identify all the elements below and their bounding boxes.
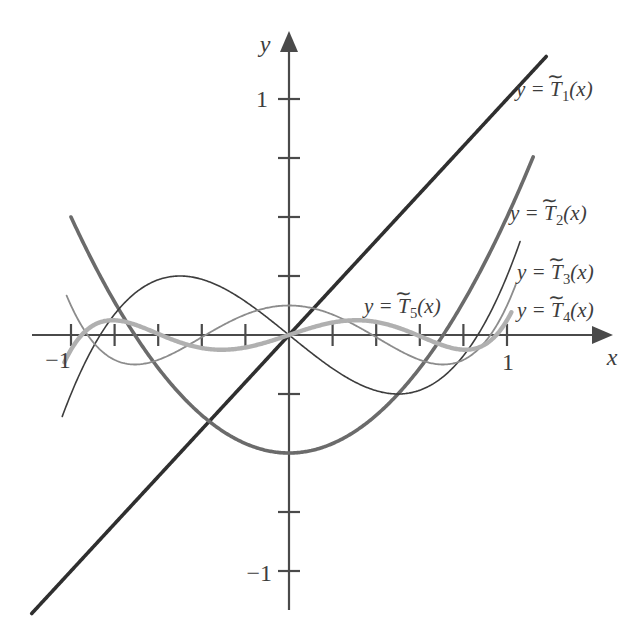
x-tick-label-neg1: −1 [45,347,71,373]
curve-label-t5-symbol: ∼T [398,296,410,317]
x-axis-arrowhead [592,326,613,344]
y-tick-label-pos1: 1 [256,86,268,112]
curve-label-t1-eq: y = [516,77,545,101]
y-tick-label-neg1: −1 [246,560,272,586]
y-axis-label: y [258,31,271,57]
x-tick-label-pos1: 1 [502,349,514,375]
curve-label-t4: y = ∼T4(x) [517,300,594,324]
curve-label-t3-symbol: ∼T [551,262,563,283]
curve-label-t5-arg: (x) [417,294,440,318]
y-axis-arrowhead [280,31,298,52]
curve-label-t1: y = ∼T1(x) [516,79,593,103]
curve-label-t4-symbol: ∼T [551,300,563,321]
curve-label-t3: y = ∼T3(x) [517,262,594,286]
curve-label-t1-symbol: ∼T [550,79,562,100]
curve-label-t2-symbol: ∼T [544,203,556,224]
curve-label-t3-arg: (x) [570,260,593,284]
curve-label-t4-arg: (x) [570,298,593,322]
curve-label-t4-eq: y = [517,298,546,322]
chebyshev-plot: −1 1 1 −1 x y y = ∼T1(x) y = ∼T2(x) y = … [0,0,635,632]
curve-label-t2-eq: y = [510,201,539,225]
x-axis-label: x [606,344,618,370]
curve-label-t3-eq: y = [517,260,546,284]
curve-t2 [71,157,533,453]
curve-label-t1-arg: (x) [569,77,592,101]
curve-label-t5: y = ∼T5(x) [364,296,441,320]
curve-label-t2: y = ∼T2(x) [510,203,587,227]
curve-label-t2-arg: (x) [563,201,586,225]
curve-label-t5-eq: y = [364,294,393,318]
